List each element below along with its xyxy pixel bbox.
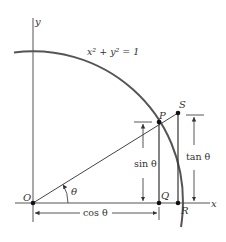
tan-label: tan θ	[186, 151, 211, 162]
circle-equation: x² + y² = 1	[87, 46, 139, 57]
x-axis-label: x	[211, 198, 217, 209]
label-o: O	[23, 192, 31, 203]
diagram-canvas: y x x² + y² = 1 O P Q R S θ sin θ tan θ …	[0, 0, 226, 242]
angle-arc	[63, 185, 68, 204]
label-s: S	[179, 99, 186, 110]
unit-circle-diagram: y x x² + y² = 1 O P Q R S θ sin θ tan θ …	[0, 0, 226, 242]
point-q	[157, 201, 162, 206]
point-s	[176, 111, 181, 116]
label-p: P	[158, 110, 166, 121]
unit-circle-arc	[14, 51, 183, 227]
y-axis-label: y	[34, 16, 41, 27]
cos-label: cos θ	[83, 207, 108, 218]
point-r	[176, 201, 181, 206]
point-o	[31, 201, 36, 206]
label-r: R	[180, 205, 189, 216]
angle-label: θ	[71, 186, 77, 197]
label-q: Q	[161, 190, 169, 201]
sin-label: sin θ	[134, 158, 157, 169]
